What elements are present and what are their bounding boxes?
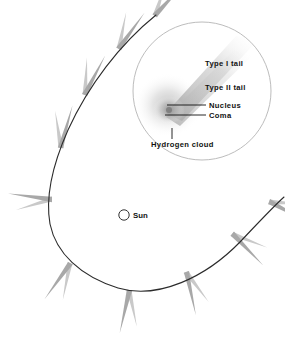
comet-diagram-svg: Sun Type I tail Type II tail Nucleus Com… [0, 0, 285, 351]
comet-tail-marker [44, 260, 79, 307]
nucleus-dot [166, 107, 172, 113]
comet-tail-marker [229, 225, 274, 265]
tail-lobe-secondary [230, 225, 267, 258]
tail-lobe-primary [120, 290, 133, 335]
comet-tail-marker [120, 290, 140, 335]
tail-lobe-primary [116, 9, 144, 52]
nucleus-label: Nucleus [209, 101, 241, 110]
tail-lobe-primary [152, 0, 184, 19]
tail-lobe-primary [229, 231, 269, 265]
type-ii-tail-label: Type II tail [205, 83, 246, 92]
tail-lobe-primary [44, 260, 72, 303]
type-i-tail-label: Type I tail [205, 59, 243, 68]
coma-label: Coma [209, 111, 232, 120]
comet-tail-marker [109, 5, 144, 52]
magnified-inset: Type I tail Type II tail Nucleus Coma Hy… [133, 22, 272, 161]
comet-tail-marker [50, 103, 72, 149]
tail-lobe-primary [58, 104, 73, 149]
sun-label: Sun [133, 211, 148, 220]
comet-tail-marker [267, 192, 285, 223]
hydrogen-cloud-label: Hydrogen cloud [151, 140, 214, 149]
sun-circle [119, 210, 129, 220]
sun-marker: Sun [119, 210, 148, 220]
diagram-canvas: Sun Type I tail Type II tail Nucleus Com… [0, 0, 285, 351]
comet-tail-marker [8, 194, 52, 211]
comet-tail-marker [146, 0, 185, 19]
